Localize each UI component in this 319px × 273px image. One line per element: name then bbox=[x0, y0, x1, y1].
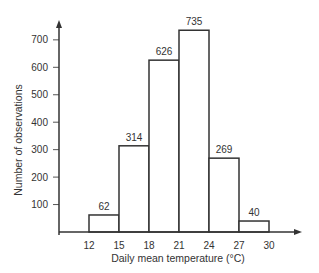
x-axis-ticks: 12151821242730 bbox=[83, 240, 275, 251]
x-axis-title: Daily mean temperature (°C) bbox=[111, 252, 245, 264]
y-tick-label: 300 bbox=[31, 144, 48, 155]
x-tick-label: 12 bbox=[83, 240, 95, 251]
y-tick-label: 100 bbox=[31, 199, 48, 210]
x-tick-label: 27 bbox=[233, 240, 245, 251]
x-tick-label: 30 bbox=[263, 240, 275, 251]
histogram-bar bbox=[179, 30, 209, 232]
y-tick-label: 200 bbox=[31, 172, 48, 183]
bar-value-label: 62 bbox=[98, 201, 110, 212]
histogram-bar bbox=[89, 215, 119, 232]
histogram-bar bbox=[239, 221, 269, 232]
bars-group bbox=[89, 30, 269, 232]
histogram-bar bbox=[209, 158, 239, 232]
histogram-bar bbox=[119, 146, 149, 232]
bar-value-label: 626 bbox=[156, 46, 173, 57]
x-axis-arrow-icon bbox=[294, 229, 302, 235]
y-tick-label: 500 bbox=[31, 89, 48, 100]
y-axis-ticks: 100200300400500600700 bbox=[31, 34, 59, 210]
bar-value-label: 40 bbox=[248, 207, 260, 218]
y-axis-arrow-icon bbox=[56, 20, 62, 28]
y-tick-label: 700 bbox=[31, 34, 48, 45]
x-tick-label: 24 bbox=[203, 240, 215, 251]
bar-value-label: 735 bbox=[186, 16, 203, 27]
histogram-chart: 6231462673526940 100200300400500600700 1… bbox=[0, 0, 319, 273]
y-tick-label: 400 bbox=[31, 117, 48, 128]
bar-value-label: 269 bbox=[216, 144, 233, 155]
x-tick-label: 18 bbox=[143, 240, 155, 251]
x-tick-label: 21 bbox=[173, 240, 185, 251]
y-tick-label: 600 bbox=[31, 62, 48, 73]
x-tick-label: 15 bbox=[113, 240, 125, 251]
bar-value-label: 314 bbox=[126, 132, 143, 143]
histogram-bar bbox=[149, 60, 179, 232]
y-axis-title: Number of observations bbox=[12, 84, 24, 195]
